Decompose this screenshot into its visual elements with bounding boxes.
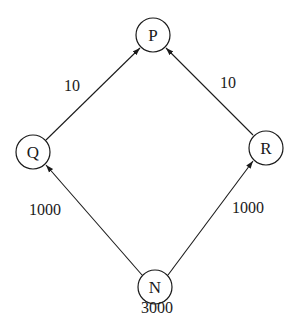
node-n-value: 3000 — [141, 299, 173, 316]
edge-q-p-weight: 10 — [64, 77, 80, 94]
edge-n-q-weight: 1000 — [29, 201, 61, 218]
node-q: Q — [16, 135, 50, 169]
node-r: R — [249, 131, 283, 165]
node-n-label: N — [149, 278, 161, 297]
node-p: P — [136, 18, 170, 52]
edge-n-to-q — [46, 165, 142, 275]
edge-r-p-weight: 10 — [220, 74, 236, 91]
node-q-label: Q — [27, 143, 39, 162]
node-r-label: R — [260, 139, 272, 158]
node-p-label: P — [148, 26, 157, 45]
edge-r-to-p — [166, 48, 253, 135]
edge-q-to-p — [46, 48, 140, 140]
edge-n-r-weight: 1000 — [232, 199, 264, 216]
diagram-canvas: P Q R N 10 10 1000 1000 3000 — [0, 0, 299, 324]
edge-n-to-r — [168, 161, 253, 275]
